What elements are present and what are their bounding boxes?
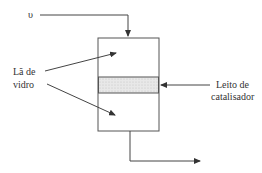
glass-wool-label-2: vidro (13, 79, 34, 91)
catalyst-bed (99, 77, 159, 93)
outlet-line (130, 131, 200, 161)
catalyst-bed-label-2: catalisador (211, 91, 254, 103)
inlet-flow-symbol: υ (28, 9, 33, 21)
glass-wool-label-1: Lã de (13, 66, 36, 78)
catalyst-bed-label-1: Leito de (216, 79, 249, 91)
inlet-line (40, 15, 128, 36)
glass-wool-pointer-top (45, 53, 116, 71)
